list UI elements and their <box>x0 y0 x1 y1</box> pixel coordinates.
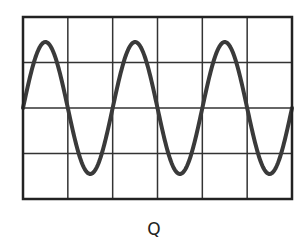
oscilloscope-display <box>0 0 308 243</box>
figure-label: Q <box>0 219 308 239</box>
